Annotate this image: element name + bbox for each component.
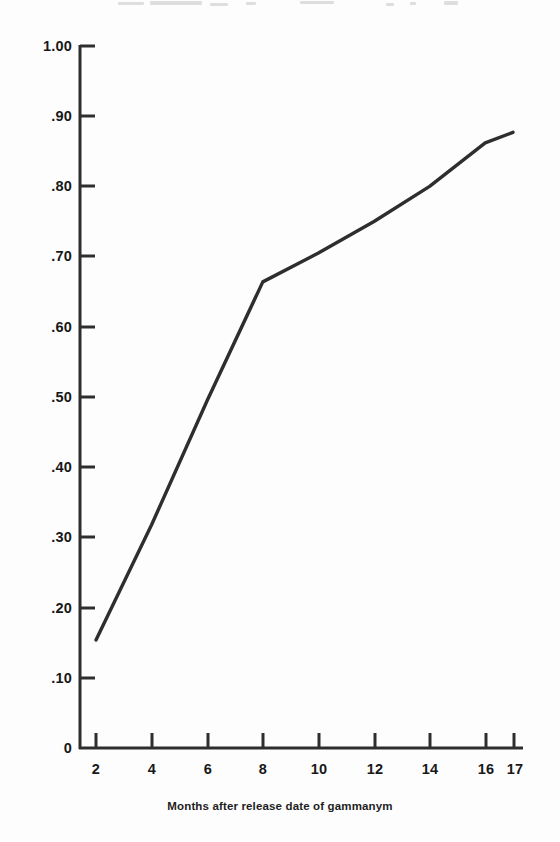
y-tick-label: .70 <box>10 249 72 264</box>
y-tick-label: .60 <box>10 320 72 335</box>
y-tick-label: .80 <box>10 179 72 194</box>
chart-plot-area <box>0 0 560 842</box>
y-tick-label: .90 <box>10 109 72 124</box>
y-tick-label: .30 <box>10 530 72 545</box>
x-tick-label: 10 <box>299 762 339 777</box>
y-tick-label: .10 <box>10 671 72 686</box>
x-tick-label: 14 <box>410 762 450 777</box>
y-tick-label: .40 <box>10 460 72 475</box>
x-tick-label: 4 <box>132 762 172 777</box>
x-tick-label: 8 <box>243 762 283 777</box>
y-tick-label: 1.00 <box>10 39 72 54</box>
data-series-line <box>96 132 513 640</box>
x-axis-caption: Months after release date of gammanym <box>0 800 560 812</box>
y-tick-label: .20 <box>10 601 72 616</box>
x-tick-label: 17 <box>495 762 535 777</box>
x-tick-label: 12 <box>355 762 395 777</box>
x-tick-label: 6 <box>188 762 228 777</box>
y-tick-label: 0 <box>10 741 72 756</box>
line-chart-figure: 1.00 .90 .80 .70 .60 .50 .40 .30 .20 .10… <box>0 0 560 842</box>
x-axis-ticks <box>96 733 514 748</box>
y-tick-label: .50 <box>10 390 72 405</box>
y-axis-ticks <box>80 46 95 678</box>
x-tick-label: 2 <box>76 762 116 777</box>
